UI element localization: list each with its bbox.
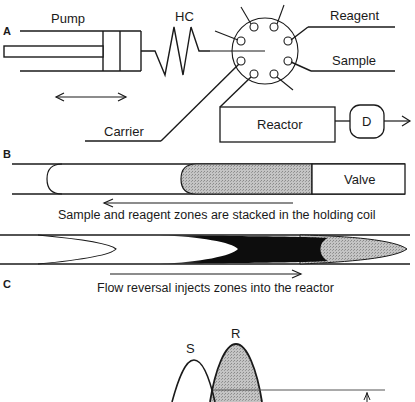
panel-label-a: A xyxy=(3,25,11,37)
sample-label: Sample xyxy=(332,53,376,68)
carrier-label: Carrier xyxy=(104,124,144,139)
reagent-peak xyxy=(210,344,262,402)
panel-label-b: B xyxy=(3,148,11,160)
panel-b: B Valve Sample and reagent zones are sta… xyxy=(3,148,405,222)
valve-label: Valve xyxy=(344,172,376,187)
detector-response-peaks: S R xyxy=(172,326,385,402)
panel-c-caption: Flow reversal injects zones into the rea… xyxy=(97,281,334,295)
overlap-zone xyxy=(160,235,328,264)
bidirectional-arrow-icon xyxy=(56,93,126,101)
outflow-arrow-icon xyxy=(384,116,410,126)
detector-label: D xyxy=(362,114,371,129)
panel-b-caption: Sample and reagent zones are stacked in … xyxy=(58,208,376,222)
up-arrow-icon xyxy=(364,392,370,402)
s-peak-label: S xyxy=(186,341,195,356)
reactor-label: Reactor xyxy=(257,117,303,132)
sequential-injection-diagram: A Pump HC xyxy=(0,0,415,402)
left-arrow-icon xyxy=(104,199,293,207)
right-arrow-icon xyxy=(110,270,301,278)
pump-label: Pump xyxy=(51,11,85,26)
hc-label: HC xyxy=(175,9,194,24)
pump-syringe xyxy=(4,31,141,71)
reagent-zone xyxy=(181,164,312,194)
sample-zone xyxy=(47,164,62,194)
r-peak-label: R xyxy=(231,326,240,341)
panel-a: A Pump HC xyxy=(3,5,410,142)
panel-label-c: C xyxy=(3,278,11,290)
holding-coil xyxy=(141,27,210,75)
reagent-label: Reagent xyxy=(330,8,380,23)
sample-peak xyxy=(172,360,215,402)
panel-c: C Flow reversal injects zones into the r… xyxy=(0,235,410,295)
dispersed-sample-zone xyxy=(38,235,116,264)
